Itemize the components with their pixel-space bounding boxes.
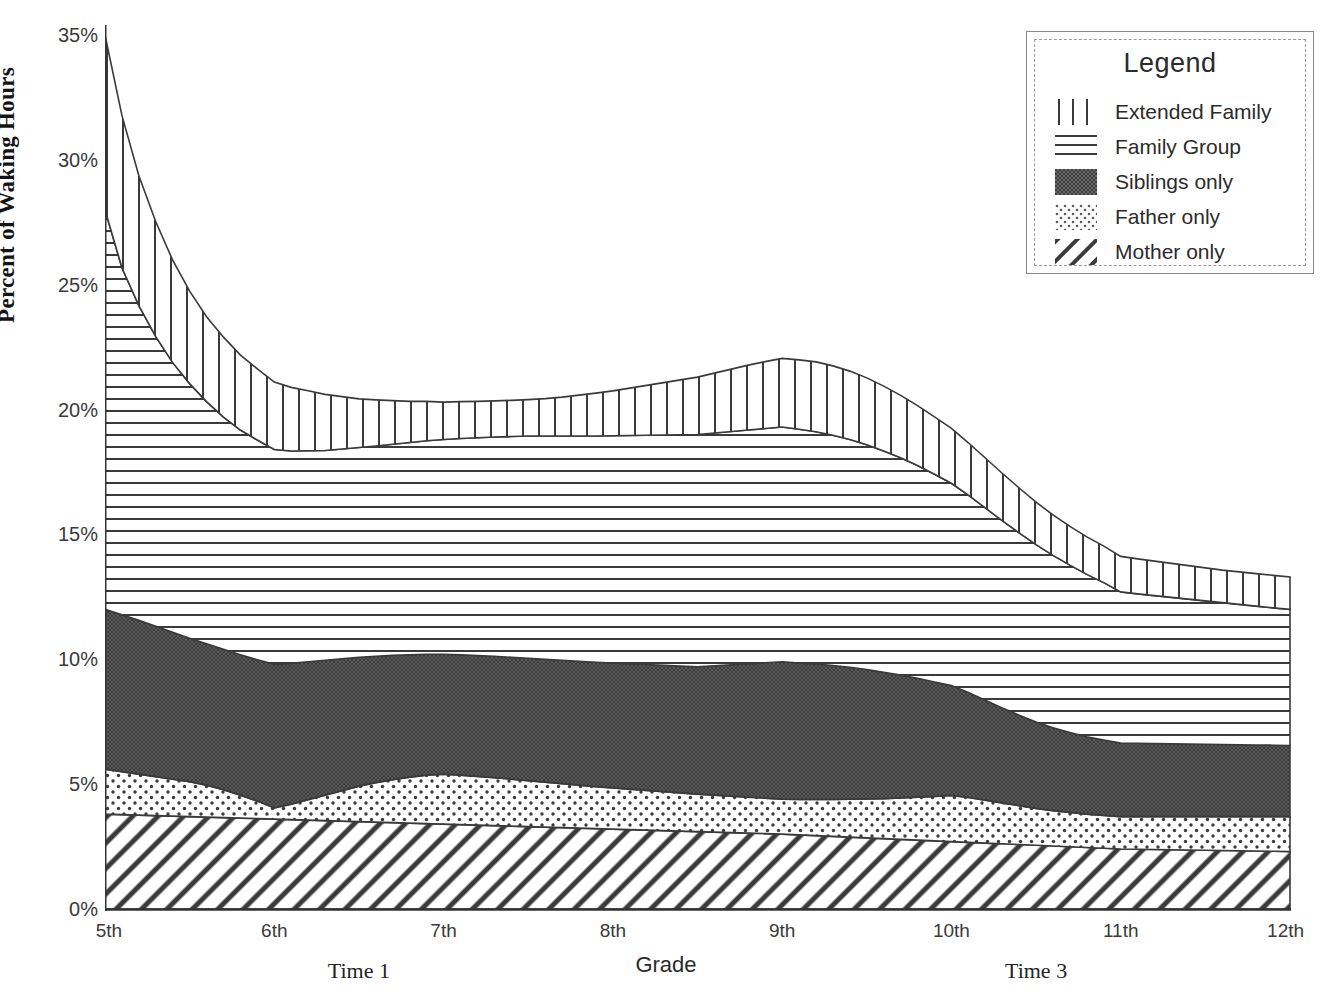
legend-box: Legend Extended FamilyFamily GroupSiblin… — [1026, 31, 1314, 274]
y-axis-title: Percent of Waking Hours — [0, 30, 20, 360]
legend-label: Family Group — [1115, 135, 1241, 159]
x-tick-label: 9th — [769, 920, 795, 942]
legend-swatch-solid-dark-icon — [1055, 169, 1097, 195]
x-tick-label: 6th — [261, 920, 287, 942]
y-tick-label: 30% — [36, 149, 98, 172]
y-tick-label: 15% — [36, 523, 98, 546]
legend-rows: Extended FamilyFamily GroupSiblings only… — [1027, 94, 1313, 269]
legend-item-extended-family[interactable]: Extended Family — [1027, 94, 1313, 129]
legend-label: Extended Family — [1115, 100, 1271, 124]
x-tick-label: 7th — [430, 920, 456, 942]
legend-label: Father only — [1115, 205, 1220, 229]
y-tick-label: 20% — [36, 399, 98, 422]
y-tick-label: 5% — [36, 773, 98, 796]
legend-item-father-only[interactable]: Father only — [1027, 199, 1313, 234]
y-tick-label: 0% — [36, 898, 98, 921]
legend-swatch-diagonal-lines-icon — [1055, 239, 1097, 265]
y-axis-ticks: 0%5%10%15%20%25%30%35% — [32, 0, 98, 1007]
x-tick-label: 10th — [933, 920, 970, 942]
legend-label: Mother only — [1115, 240, 1225, 264]
annotation-label: Time 3 — [1005, 958, 1067, 984]
x-tick-label: 8th — [600, 920, 626, 942]
y-tick-label: 25% — [36, 274, 98, 297]
annotation-label: Time 1 — [328, 958, 390, 984]
x-axis-title: Grade — [635, 952, 696, 978]
legend-label: Siblings only — [1115, 170, 1233, 194]
legend-swatch-horizontal-lines-icon — [1055, 134, 1097, 160]
legend-item-siblings-only[interactable]: Siblings only — [1027, 164, 1313, 199]
legend-swatch-dots-icon — [1055, 204, 1097, 230]
stacked-area-chart: Percent of Waking Hours 0%5%10%15%20%25%… — [0, 0, 1333, 1007]
legend-title: Legend — [1027, 48, 1313, 79]
x-tick-label: 5th — [96, 920, 122, 942]
y-tick-label: 10% — [36, 648, 98, 671]
x-tick-label: 12th — [1267, 920, 1304, 942]
y-tick-label: 35% — [36, 24, 98, 47]
legend-item-mother-only[interactable]: Mother only — [1027, 234, 1313, 269]
legend-item-family-group[interactable]: Family Group — [1027, 129, 1313, 164]
legend-swatch-vertical-lines-icon — [1055, 99, 1097, 125]
x-tick-label: 11th — [1103, 920, 1139, 942]
